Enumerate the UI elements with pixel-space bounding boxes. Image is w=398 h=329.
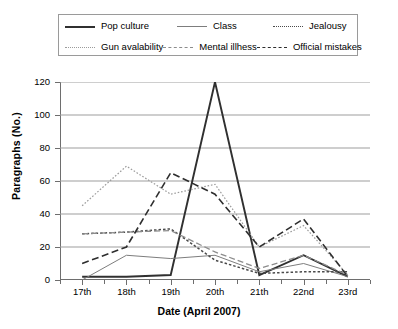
x-axis-tick-label: 18th [104, 287, 148, 297]
y-axis-tick-label: 80 [24, 143, 50, 153]
x-axis-tick-label: 20th [193, 287, 237, 297]
x-axis-tick-mark [171, 280, 172, 285]
y-axis-tick-label: 120 [24, 77, 50, 87]
x-axis-boundary-tick [370, 280, 371, 284]
x-axis-boundary-tick [326, 280, 327, 284]
x-axis-boundary-tick [60, 280, 61, 284]
x-axis-tick-mark [348, 280, 349, 285]
legend-row-1: Pop culture Class Jealousy [59, 15, 357, 36]
x-axis-boundary-tick [237, 280, 238, 284]
x-axis-tick-mark [259, 280, 260, 285]
chart-lines [60, 82, 370, 280]
legend-item-official-mistakes: Official mistakes [257, 42, 362, 52]
legend-swatch-official-mistakes [257, 42, 287, 52]
series-line-jealousy [82, 229, 348, 274]
x-axis-tick-mark [215, 280, 216, 285]
legend-label-mental-illhess: Mental illhess [199, 42, 257, 52]
y-axis-labels: 020406080100120 [20, 0, 50, 329]
y-axis-title: Paragraphs (No.) [10, 96, 22, 216]
legend-row-2: Gun avalability Mental illhess Official … [59, 36, 357, 57]
y-axis-tick-mark [55, 181, 60, 182]
x-axis-boundary-tick [193, 280, 194, 284]
x-axis-tick-mark [126, 280, 127, 285]
legend-label-pop-culture: Pop culture [101, 21, 149, 31]
legend-item-gun-avalability: Gun avalability [65, 42, 163, 52]
legend-item-class: Class [177, 21, 273, 31]
y-axis-tick-label: 0 [24, 275, 50, 285]
plot-area [60, 82, 370, 280]
legend-label-official-mistakes: Official mistakes [293, 42, 362, 52]
y-axis-tick-label: 60 [24, 176, 50, 186]
y-axis-tick-label: 100 [24, 110, 50, 120]
x-axis-boundary-tick [281, 280, 282, 284]
x-axis-tick-label: 21th [237, 287, 281, 297]
x-axis-tick-label: 19th [149, 287, 193, 297]
x-axis-tick-label: 22nd [282, 287, 326, 297]
legend-swatch-jealousy [273, 21, 303, 31]
y-axis-tick-label: 20 [24, 242, 50, 252]
legend-item-pop-culture: Pop culture [65, 21, 177, 31]
x-axis-tick-label: 17th [60, 287, 104, 297]
legend-item-jealousy: Jealousy [273, 21, 347, 31]
legend-swatch-gun-avalability [65, 42, 95, 52]
legend-swatch-class [177, 21, 207, 31]
x-axis-labels: 17th18th19th20th21th22nd23rd [0, 287, 398, 301]
y-axis-tick-mark [55, 148, 60, 149]
series-line-official-mistakes [82, 173, 348, 277]
x-axis-boundary-tick [104, 280, 105, 284]
legend-swatch-pop-culture [65, 21, 95, 31]
x-axis-tick-mark [82, 280, 83, 285]
series-line-mental-illhess [82, 231, 348, 276]
y-axis-tick-mark [55, 82, 60, 83]
legend-label-gun-avalability: Gun avalability [101, 42, 163, 52]
y-axis-tick-mark [55, 214, 60, 215]
chart-legend: Pop culture Class Jealousy Gun avalabili… [58, 14, 358, 56]
y-axis-tick-mark [55, 247, 60, 248]
legend-item-mental-illhess: Mental illhess [163, 42, 257, 52]
x-axis-boundary-tick [149, 280, 150, 284]
x-axis-title: Date (April 2007) [0, 305, 398, 317]
legend-label-class: Class [213, 21, 237, 31]
x-axis-tick-label: 23rd [326, 287, 370, 297]
series-line-gun-avalability [82, 166, 348, 275]
legend-swatch-mental-illhess [163, 42, 193, 52]
x-axis-tick-mark [304, 280, 305, 285]
legend-label-jealousy: Jealousy [309, 21, 347, 31]
y-axis-tick-mark [55, 115, 60, 116]
y-axis-tick-label: 40 [24, 209, 50, 219]
